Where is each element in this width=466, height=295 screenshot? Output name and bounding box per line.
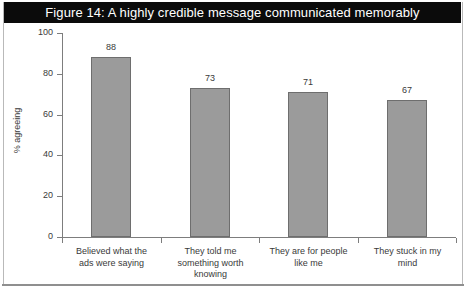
bar xyxy=(91,57,131,237)
y-axis-tick xyxy=(57,196,62,197)
x-axis-category-label-line: knowing xyxy=(161,269,260,281)
x-axis-category-label-line: ads were saying xyxy=(62,258,161,270)
x-axis-category-label: They stuck in mymind xyxy=(358,246,457,269)
y-axis-tick-label: 20 xyxy=(13,191,53,200)
figure-container: Figure 14: A highly credible message com… xyxy=(0,0,466,295)
x-axis-tick xyxy=(259,238,260,243)
y-axis-tick-label: 80 xyxy=(13,69,53,78)
bar-value-label: 73 xyxy=(185,74,235,83)
frame-border-bottom xyxy=(2,284,464,286)
y-axis-line xyxy=(62,33,63,238)
x-axis-category-label-line: They are for people xyxy=(259,246,358,258)
x-axis-category-label-line: They stuck in my xyxy=(358,246,457,258)
bar-value-label: 67 xyxy=(382,86,432,95)
figure-title: Figure 14: A highly credible message com… xyxy=(45,6,419,19)
y-axis-tick xyxy=(57,155,62,156)
x-axis-category-label-line: something worth xyxy=(161,258,260,270)
y-axis-tick-label: 40 xyxy=(13,150,53,159)
x-axis-category-label-line: like me xyxy=(259,258,358,270)
x-axis-tick xyxy=(358,238,359,243)
y-axis-tick xyxy=(57,115,62,116)
x-axis-tick xyxy=(456,238,457,243)
x-axis-category-label: Believed what theads were saying xyxy=(62,246,161,269)
x-axis-category-label-line: Believed what the xyxy=(62,246,161,258)
x-axis-category-label-line: They told me xyxy=(161,246,260,258)
x-axis-category-label: They are for peoplelike me xyxy=(259,246,358,269)
bar-value-label: 71 xyxy=(283,78,333,87)
bar-value-label: 88 xyxy=(86,43,136,52)
y-axis-tick-label: 60 xyxy=(13,110,53,119)
y-axis-tick-label: 0 xyxy=(13,232,53,241)
frame-border-left xyxy=(3,2,4,285)
x-axis-category-label-line: mind xyxy=(358,258,457,270)
y-axis-tick-label: 100 xyxy=(13,28,53,37)
x-axis-tick xyxy=(161,238,162,243)
frame-border-right xyxy=(462,2,463,285)
bar xyxy=(288,92,328,237)
figure-title-bar: Figure 14: A highly credible message com… xyxy=(4,2,461,23)
y-axis-tick xyxy=(57,74,62,75)
bar xyxy=(387,100,427,237)
x-axis-tick xyxy=(62,238,63,243)
bar xyxy=(190,88,230,237)
y-axis-tick xyxy=(57,33,62,34)
x-axis-category-label: They told mesomething worthknowing xyxy=(161,246,260,281)
